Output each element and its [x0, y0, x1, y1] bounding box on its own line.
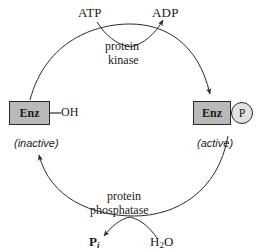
left-enzyme-box: Enz	[9, 101, 50, 125]
inorganic-phosphate-label: Pi	[89, 235, 99, 250]
phosphate-circle: P	[231, 102, 253, 124]
hydroxyl-label: OH	[61, 106, 78, 118]
right-enzyme-box-label: Enz	[202, 106, 222, 121]
water-label: H2O	[150, 235, 173, 250]
protein-phosphatase-label-line1: protein	[107, 190, 141, 202]
left-enzyme-box-label: Enz	[19, 106, 39, 121]
water-o-symbol: O	[164, 234, 173, 249]
protein-kinase-label-line2: kinase	[108, 54, 139, 66]
adp-label: ADP	[152, 6, 179, 19]
phosphate-symbol: P	[89, 234, 97, 249]
phosphate-circle-label: P	[239, 106, 246, 121]
protein-kinase-label-line1: protein	[105, 40, 139, 52]
phosphate-output-curve	[104, 217, 130, 236]
water-h-symbol: H	[150, 234, 159, 249]
atp-label: ATP	[78, 6, 102, 19]
active-state-label: (active)	[197, 138, 233, 149]
phosphate-subscript: i	[97, 240, 100, 250]
inactive-state-label: (inactive)	[14, 138, 59, 149]
phosphorylation-cycle-diagram: ATP ADP protein kinase Enz OH (inactive)…	[0, 0, 260, 252]
right-enzyme-box: Enz	[193, 101, 231, 125]
protein-phosphatase-label-line2: phosphatase	[90, 204, 149, 216]
